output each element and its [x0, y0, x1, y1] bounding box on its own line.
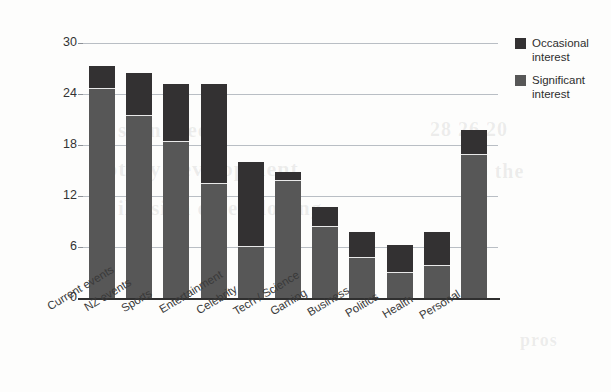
y-tick-mark-30 — [78, 43, 83, 44]
bar-personal[interactable] — [461, 130, 487, 298]
y-tick-label-18: 18 — [51, 137, 77, 151]
y-tick-label-6: 6 — [51, 239, 77, 253]
bar-segment-occasional[interactable] — [201, 84, 227, 183]
y-tick-label-30: 30 — [51, 35, 77, 49]
legend-item[interactable]: Occasionalinterest — [515, 36, 611, 64]
bar-entertainment[interactable] — [201, 84, 227, 298]
y-tick-label-24: 24 — [51, 86, 77, 100]
chart-legend: OccasionalinterestSignificantinterest — [515, 36, 611, 110]
bar-segment-occasional[interactable] — [349, 232, 375, 258]
legend-item-label: Occasionalinterest — [532, 36, 589, 64]
bar-segment-occasional[interactable] — [461, 130, 487, 154]
y-tick-mark-24 — [78, 94, 83, 95]
gridline-30 — [83, 43, 498, 44]
y-tick-mark-12 — [78, 196, 83, 197]
bar-segment-occasional[interactable] — [275, 172, 301, 180]
x-axis-labels: Current eventsNZ eventsSportsEntertainme… — [0, 300, 611, 392]
y-axis-labels: 3024181260 — [47, 43, 77, 298]
y-tick-mark-6 — [78, 247, 83, 248]
bar-sports[interactable] — [163, 84, 189, 298]
bar-segment-significant[interactable] — [461, 154, 487, 299]
bar-segment-significant[interactable] — [126, 115, 152, 298]
bar-business[interactable] — [349, 232, 375, 298]
bar-segment-occasional[interactable] — [163, 84, 189, 141]
bar-politics[interactable] — [387, 245, 413, 298]
bar-gaming[interactable] — [312, 207, 338, 298]
bar-segment-occasional[interactable] — [424, 232, 450, 265]
bar-segment-occasional[interactable] — [126, 73, 152, 116]
bar-nz-events[interactable] — [126, 73, 152, 298]
bar-segment-occasional[interactable] — [312, 207, 338, 226]
plot-area — [83, 43, 498, 298]
bar-segment-significant[interactable] — [312, 226, 338, 298]
y-tick-mark-18 — [78, 145, 83, 146]
legend-swatch-significant — [515, 75, 526, 86]
legend-item[interactable]: Significantinterest — [515, 73, 611, 101]
bar-current-events[interactable] — [89, 66, 115, 298]
bar-health[interactable] — [424, 232, 450, 298]
bar-segment-occasional[interactable] — [238, 162, 264, 246]
bar-celebrity[interactable] — [238, 162, 264, 298]
bar-segment-occasional[interactable] — [387, 245, 413, 271]
chart-screenshot: scan bleedrotary developmentillusion o d… — [0, 0, 611, 392]
legend-swatch-occasional — [515, 38, 526, 49]
bar-segment-significant[interactable] — [163, 141, 189, 298]
bar-segment-occasional[interactable] — [89, 66, 115, 88]
y-tick-label-12: 12 — [51, 188, 77, 202]
legend-item-label: Significantinterest — [532, 73, 585, 101]
